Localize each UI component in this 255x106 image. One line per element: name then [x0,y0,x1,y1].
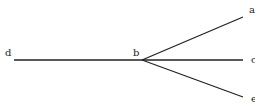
edge-b-a [142,17,243,60]
node-label-e: e [251,94,255,104]
node-label-c: c [251,55,255,65]
node-label-a: a [249,5,255,15]
node-label-d: d [5,48,11,58]
tree-diagram [0,0,255,106]
edge-b-e [142,60,243,97]
node-label-b: b [133,48,139,58]
tree-edges [14,17,243,97]
